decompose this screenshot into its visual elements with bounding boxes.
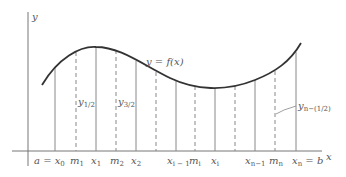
x-axis-label: x bbox=[326, 152, 332, 162]
tick-label-x2: x2 bbox=[131, 156, 141, 168]
tick-label-m2: m2 bbox=[110, 156, 124, 168]
midpoint-rule-figure bbox=[0, 0, 346, 177]
ordinate-leader bbox=[284, 106, 296, 110]
tick-label-m1: m1 bbox=[70, 156, 84, 168]
tick-label-x0: a = x0 bbox=[34, 156, 65, 168]
ordinate-leader-2 bbox=[276, 110, 284, 114]
tick-label-mn: mn bbox=[269, 156, 283, 168]
tick-label-mi: mi bbox=[189, 156, 201, 168]
ordinate-label-first: y1/2 bbox=[78, 97, 95, 109]
ordinate-label-last: yn−(1/2) bbox=[298, 101, 331, 113]
ordinate-label-second: y3/2 bbox=[118, 97, 135, 109]
tick-label-xi: xi bbox=[211, 156, 219, 168]
y-axis-label: y bbox=[32, 12, 38, 22]
tick-label-xi-1: xi − 1 bbox=[167, 156, 190, 168]
tick-label-xn-1: xn−1 bbox=[245, 156, 265, 168]
curve-label: y = f(x) bbox=[146, 57, 184, 67]
tick-label-x1: x1 bbox=[91, 156, 101, 168]
tick-label-xn: xn = b bbox=[292, 156, 323, 168]
